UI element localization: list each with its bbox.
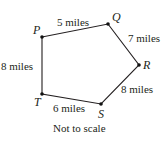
vertex-label-q: Q	[112, 10, 121, 24]
vertex-label-s: S	[98, 107, 104, 121]
edge-label-st: 6 miles	[53, 102, 85, 114]
vertex-s-dot	[99, 102, 103, 106]
vertex-r-dot	[137, 63, 141, 67]
edge-label-pq: 5 miles	[57, 16, 89, 28]
vertex-label-p: P	[32, 23, 41, 37]
pentagon-diagram: P Q R S T 5 miles 7 miles 8 miles 6 mile…	[0, 0, 168, 143]
vertex-p-dot	[40, 35, 44, 39]
vertex-t-dot	[40, 92, 44, 96]
vertex-label-r: R	[142, 58, 151, 72]
vertex-q-dot	[106, 22, 110, 26]
vertex-label-t: T	[34, 95, 42, 109]
caption: Not to scale	[53, 122, 106, 134]
edge-label-rs: 8 miles	[121, 83, 153, 95]
edge-label-qr: 7 miles	[128, 32, 160, 44]
edge-label-tp: 8 miles	[1, 60, 33, 72]
